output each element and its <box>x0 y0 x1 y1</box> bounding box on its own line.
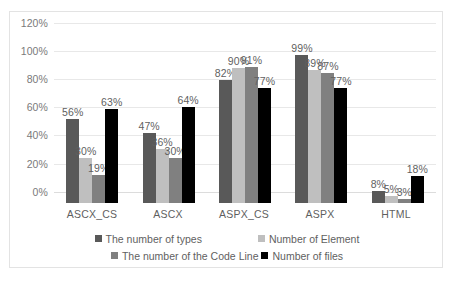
bar-value-label: 3% <box>397 186 412 198</box>
bar-slot: 82% <box>219 12 232 204</box>
bar-value-label: 18% <box>407 163 428 175</box>
bar[interactable]: 56% <box>66 119 79 203</box>
plot-area: 120% 100% 80% 60% 40% 20% 0% 56%30%19%63… <box>10 12 444 204</box>
legend-swatch-icon <box>95 235 102 242</box>
bar-slot: 90% <box>232 12 245 204</box>
x-axis-label: ASPX <box>282 204 358 226</box>
bar[interactable]: 30% <box>169 158 182 203</box>
bar-group: 56%30%19%63% <box>54 12 130 204</box>
y-axis-tick: 120% <box>21 17 48 29</box>
legend-item-types[interactable]: The number of types <box>95 233 202 245</box>
bar-slot: 8% <box>372 12 385 204</box>
bar[interactable]: 77% <box>258 88 271 203</box>
bar-value-label: 64% <box>177 94 198 106</box>
bar[interactable]: 82% <box>219 80 232 203</box>
bar[interactable]: 63% <box>105 109 118 203</box>
bar-slot: 77% <box>258 12 271 204</box>
bar-value-label: 63% <box>101 96 122 108</box>
bar-slot: 89% <box>308 12 321 204</box>
bar-slot: 56% <box>66 12 79 204</box>
bar-slot: 47% <box>143 12 156 204</box>
bar[interactable]: 99% <box>295 55 308 203</box>
bar[interactable]: 19% <box>92 175 105 203</box>
bar[interactable]: 87% <box>321 73 334 203</box>
legend-label: The number of the Code Line <box>122 250 259 262</box>
chart-legend: The number of types Number of Element Th… <box>10 228 444 268</box>
bar[interactable]: 18% <box>411 176 424 203</box>
legend-swatch-icon <box>111 252 118 259</box>
bar-groups: 56%30%19%63%47%36%30%64%82%90%91%77%99%8… <box>54 12 436 204</box>
bar-slot: 63% <box>105 12 118 204</box>
legend-row: The number of the Code Line Number of fi… <box>111 247 343 264</box>
y-axis-tick: 60% <box>27 101 48 113</box>
bar[interactable]: 36% <box>156 149 169 203</box>
x-axis-label: ASCX_CS <box>54 204 130 226</box>
x-axis: ASCX_CS ASCX ASPX_CS ASPX HTML <box>54 204 434 226</box>
bar-slot: 18% <box>411 12 424 204</box>
bar-slot: 30% <box>169 12 182 204</box>
x-axis-label: ASCX <box>130 204 206 226</box>
bar[interactable]: 91% <box>245 67 258 203</box>
bar-cluster: 99%89%87%77% <box>295 12 347 204</box>
bar-slot: 91% <box>245 12 258 204</box>
bar-cluster: 8%5%3%18% <box>372 12 424 204</box>
bar-group: 47%36%30%64% <box>130 12 206 204</box>
x-axis-label: ASPX_CS <box>206 204 282 226</box>
legend-label: Number of Element <box>269 233 359 245</box>
legend-label: The number of types <box>106 233 202 245</box>
bar[interactable]: 77% <box>334 88 347 203</box>
bar[interactable]: 64% <box>182 107 195 203</box>
bar-group: 8%5%3%18% <box>360 12 436 204</box>
bar[interactable]: 90% <box>232 68 245 203</box>
x-axis-label: HTML <box>358 204 434 226</box>
bar-slot: 5% <box>385 12 398 204</box>
bar-group: 99%89%87%77% <box>283 12 359 204</box>
bar-cluster: 56%30%19%63% <box>66 12 118 204</box>
legend-row: The number of types Number of Element <box>95 230 360 247</box>
bar-cluster: 82%90%91%77% <box>219 12 271 204</box>
legend-swatch-icon <box>258 235 265 242</box>
chart-container: 120% 100% 80% 60% 40% 20% 0% 56%30%19%63… <box>9 11 443 268</box>
y-axis-tick: 20% <box>27 158 48 170</box>
bar-slot: 36% <box>156 12 169 204</box>
bar-slot: 30% <box>79 12 92 204</box>
legend-label: Number of files <box>272 250 343 262</box>
bar[interactable]: 3% <box>398 199 411 203</box>
bar-slot: 77% <box>334 12 347 204</box>
bar-value-label: 77% <box>330 75 351 87</box>
bar-group: 82%90%91%77% <box>207 12 283 204</box>
y-axis-tick: 100% <box>21 45 48 57</box>
bar-cluster: 47%36%30%64% <box>143 12 195 204</box>
bar[interactable]: 89% <box>308 70 321 203</box>
bar-slot: 99% <box>295 12 308 204</box>
bar-slot: 64% <box>182 12 195 204</box>
y-axis-tick: 40% <box>27 129 48 141</box>
legend-swatch-icon <box>261 252 268 259</box>
y-axis-tick: 80% <box>27 73 48 85</box>
bar-value-label: 77% <box>254 75 275 87</box>
legend-item-files[interactable]: Number of files <box>261 250 343 262</box>
y-axis-tick: 0% <box>33 186 48 198</box>
legend-item-element[interactable]: Number of Element <box>258 233 359 245</box>
legend-item-code-line[interactable]: The number of the Code Line <box>111 250 259 262</box>
bar-slot: 19% <box>92 12 105 204</box>
plot-canvas: 56%30%19%63%47%36%30%64%82%90%91%77%99%8… <box>54 12 436 204</box>
y-axis: 120% 100% 80% 60% 40% 20% 0% <box>10 12 54 204</box>
bar-slot: 87% <box>321 12 334 204</box>
